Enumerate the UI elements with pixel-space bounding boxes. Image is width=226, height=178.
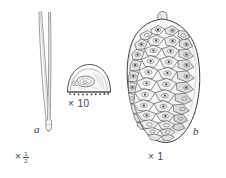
needle-sheath (46, 121, 52, 131)
scale-fraction-one-half: 12 (23, 151, 29, 165)
figure-caption-a: a (34, 124, 40, 135)
scale-label-cone: × 1 (148, 152, 163, 162)
seed-scale-left-lobe-core (74, 83, 77, 85)
scale-multiplier-sign: × (15, 151, 23, 162)
scale-label-needles: ×12 (15, 151, 29, 165)
botanical-illustration (0, 0, 226, 178)
scale-label-seed-scale: × 10 (68, 99, 89, 109)
scale-fraction-denominator: 2 (23, 157, 29, 164)
figure-caption-b: b (193, 126, 199, 137)
illustration-plate: a b ×12 × 10 × 1 (0, 0, 226, 178)
seed-scale-umbo-core (83, 81, 88, 84)
